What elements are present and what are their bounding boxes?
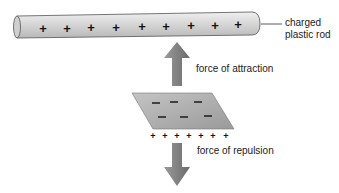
rod-label-line2: plastic rod xyxy=(285,29,331,41)
rod-label: charged plastic rod xyxy=(285,17,331,41)
svg-text:+: + xyxy=(63,21,71,36)
svg-text:+: + xyxy=(138,19,146,34)
charged-plate xyxy=(132,93,234,129)
svg-text:+: + xyxy=(223,131,228,141)
svg-text:+: + xyxy=(234,17,242,32)
svg-text:+: + xyxy=(186,131,191,141)
svg-text:+: + xyxy=(39,21,47,36)
svg-text:+: + xyxy=(210,131,215,141)
svg-text:+: + xyxy=(87,20,95,35)
plate-positive-charges: ++++ +++ xyxy=(150,131,228,141)
attraction-arrow-icon xyxy=(164,42,190,86)
svg-text:+: + xyxy=(112,20,120,35)
svg-text:+: + xyxy=(174,131,179,141)
svg-text:+: + xyxy=(187,18,195,33)
svg-text:+: + xyxy=(198,131,203,141)
svg-text:+: + xyxy=(162,19,170,34)
plastic-rod: +++ +++ +++ xyxy=(14,12,261,38)
attraction-label: force of attraction xyxy=(196,63,273,75)
svg-text:+: + xyxy=(211,18,219,33)
repulsion-label: force of repulsion xyxy=(197,145,274,157)
svg-text:+: + xyxy=(162,131,167,141)
rod-label-line1: charged xyxy=(285,17,331,29)
repulsion-arrow-icon xyxy=(164,143,190,186)
svg-text:+: + xyxy=(150,131,155,141)
